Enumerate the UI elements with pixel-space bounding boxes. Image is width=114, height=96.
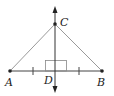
arrow-up-icon [53, 6, 58, 13]
label-c: C [60, 16, 69, 29]
label-b: B [96, 76, 105, 89]
segment-bc [55, 24, 102, 71]
segment-ac [10, 24, 55, 71]
label-d: D [43, 74, 53, 87]
point-b [100, 69, 104, 73]
arrow-down-icon [53, 86, 58, 93]
point-a [8, 69, 12, 73]
geometry-diagram: A B C D [0, 0, 114, 96]
right-angle-marker [46, 61, 67, 72]
point-c [53, 22, 57, 26]
label-a: A [4, 76, 13, 89]
